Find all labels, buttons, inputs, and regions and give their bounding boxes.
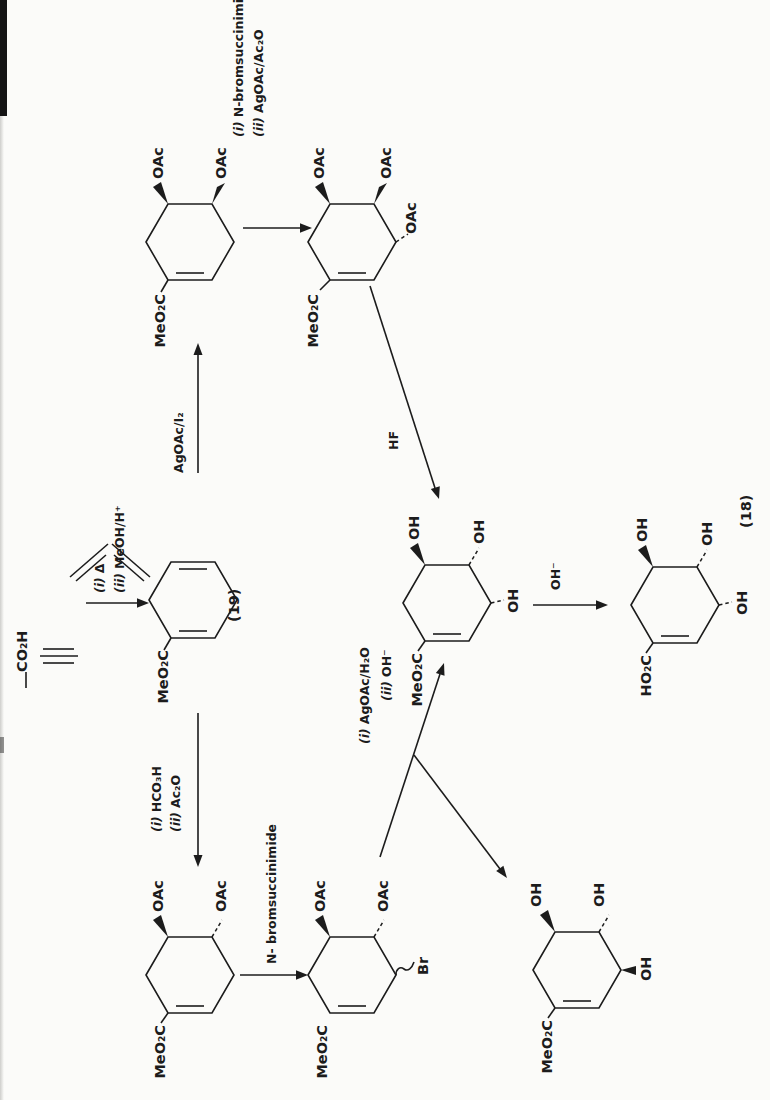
ester-label-triacetate: MeO₂C: [305, 294, 322, 389]
ester-label-19: MeO₂C: [155, 650, 172, 745]
ring: [149, 562, 237, 638]
dashed-bond-bottom: [719, 602, 732, 605]
arrow-nbs-agoac: [243, 223, 312, 233]
ester-label-cis-diacetate: MeO₂C: [152, 294, 169, 389]
br-label: Br: [415, 957, 432, 975]
ester-bond: [418, 641, 425, 651]
oh-label-top: OH: [634, 518, 651, 542]
ring: [146, 204, 234, 280]
wedge-bond-top: [315, 915, 330, 937]
ring: [403, 565, 491, 641]
structure-triol-ester: [403, 543, 504, 651]
oh-label-bottom: OH: [638, 957, 655, 981]
dashed-bond-allylic: [396, 234, 408, 242]
structure-shikimic-acid-18: [631, 545, 732, 653]
arrow-agoac-i2: [194, 343, 203, 473]
conditions-agoac-water-step1: (i)AgOAc/H₂O: [357, 647, 373, 744]
conditions-nbs-agoac-step1: (i)N-bromsuccinimide: [231, 0, 247, 137]
wedge-bond-top: [315, 182, 330, 204]
conditions-agoac-i2: AgOAc/I₂: [171, 412, 187, 473]
wedge-bond-top: [540, 910, 555, 932]
wedge-bond-bottom: [374, 183, 387, 204]
ring: [308, 937, 396, 1013]
oh-label-bottom: OH: [505, 589, 522, 613]
oh-label-top: OH: [406, 516, 423, 540]
oac-label-bottom: OAc: [375, 880, 392, 912]
ring: [146, 937, 234, 1013]
structure-butadiene: [70, 544, 150, 581]
dashed-bond-mid: [374, 920, 384, 937]
rotated-scheme-canvas: CO₂H MeO₂C (19) MeO₂C OAc OAc MeO₂C OAc …: [0, 0, 770, 1100]
ester-label-trans-diacetate: MeO₂C: [152, 1025, 169, 1100]
ring: [533, 932, 621, 1008]
conditions-performic-step2: (ii)Ac₂O: [168, 775, 184, 832]
oac-label-top: OAc: [311, 147, 328, 179]
ester-bond: [320, 280, 330, 290]
conditions-diels-alder-step1: (i)Δ: [92, 564, 108, 593]
co2h-label: CO₂H: [14, 631, 31, 672]
arrow-diels-alder: [86, 598, 149, 608]
wedge-bond-top: [153, 182, 168, 204]
wedge-bond-bottom: [621, 966, 636, 975]
oac-label-top: OAc: [150, 880, 167, 912]
ester-bond: [161, 1013, 168, 1023]
ester-label-epi-triol: MeO₂C: [539, 1020, 556, 1100]
dashed-bond-mid: [469, 548, 479, 565]
conditions-hydrolysis: OH⁻: [548, 562, 564, 590]
structure-bromo-diacetate: [308, 915, 414, 1013]
dashed-bond-mid: [599, 915, 609, 932]
arrow-hydrolysis: [533, 600, 608, 610]
oh-label-mid: OH: [591, 883, 608, 907]
arrow-to-epi-triol: [414, 755, 507, 878]
conditions-performic-step1: (i)HCO₃H: [149, 766, 165, 832]
ref-label-18: (18): [738, 495, 755, 528]
dashed-bond-bottom: [491, 600, 504, 603]
ring: [631, 567, 719, 643]
structure-trans-diacetate: [146, 915, 234, 1023]
structure-triacetate: [308, 182, 408, 290]
structure-epi-triol-ester: [533, 910, 636, 1018]
arrow-hf: [370, 286, 440, 499]
ester-label-bromo: MeO₂C: [314, 1025, 331, 1100]
oac-label-bottom: OAc: [213, 880, 230, 912]
conditions-agoac-water-step2: (ii)OH⁻: [379, 649, 395, 701]
wedge-bond-top: [638, 545, 653, 567]
ring: [308, 204, 396, 280]
oac-label-bottom: OAc: [213, 147, 230, 179]
oh-label-bottom: OH: [734, 591, 751, 615]
ref-label-19: (19): [226, 589, 243, 622]
wavy-bond-br: [396, 962, 414, 975]
acid-label-18: HO₂C: [638, 655, 655, 750]
scan-edge-mark: [0, 737, 4, 753]
conditions-nbs-agoac-step2: (ii)AgOAc/Ac₂O: [251, 29, 267, 137]
oh-label-top: OH: [528, 883, 545, 907]
ester-label-triol: MeO₂C: [409, 653, 426, 748]
wedge-bond-bottom: [212, 183, 225, 204]
conditions-diels-alder-step2: (ii)MeOH/H⁺: [112, 505, 128, 593]
oac-label-allylic: OAc: [403, 202, 420, 234]
oac-label-top: OAc: [312, 880, 329, 912]
ester-bond: [161, 280, 168, 292]
oac-label-bottom: OAc: [378, 147, 395, 179]
oh-label-mid: OH: [699, 522, 716, 546]
structure-propiolic-acid: [26, 649, 78, 688]
wedge-bond-top: [410, 543, 425, 565]
arrow-performic: [194, 713, 203, 867]
structure-cis-diacetate: [146, 182, 234, 292]
scan-edge-bar: [0, 0, 7, 116]
acid-bond: [646, 643, 653, 653]
scan-edge-shadow: [0, 0, 4, 1100]
ester-bond: [548, 1008, 555, 1018]
ester-bond: [164, 638, 171, 650]
dashed-bond-bottom: [212, 920, 222, 937]
conditions-nbs: N- bromsuccinimide: [264, 824, 280, 964]
dashed-bond-mid: [697, 550, 707, 567]
structure-diene-19: [149, 562, 237, 650]
oac-label-top: OAc: [150, 147, 167, 179]
oh-label-mid: OH: [471, 520, 488, 544]
conditions-hf: HF: [386, 431, 402, 450]
arrow-nbs: [240, 970, 308, 980]
wedge-bond-top: [153, 915, 168, 937]
